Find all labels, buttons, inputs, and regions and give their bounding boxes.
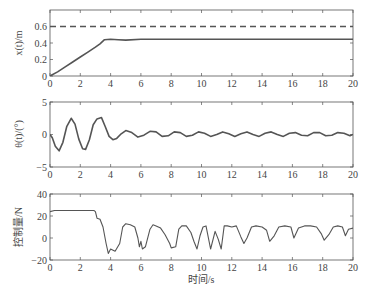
position-line (50, 39, 353, 76)
angle-plot: 02468101214161820−505 (36, 97, 358, 181)
position-plot: 0246810121416182000.20.40.6 (35, 10, 359, 89)
x-tick-label: 10 (197, 262, 207, 273)
angle-ylabel: θ(t)/(°) (13, 120, 25, 148)
x-tick-label: 2 (78, 169, 83, 180)
x-tick-label: 14 (257, 169, 267, 180)
y-tick-label: −5 (36, 162, 47, 173)
x-tick-label: 20 (348, 78, 358, 89)
x-tick-label: 0 (48, 262, 53, 273)
x-tick-label: 4 (108, 169, 113, 180)
y-tick-label: 0.6 (35, 21, 48, 32)
x-tick-label: 14 (257, 262, 267, 273)
position-ylabel: x(t)/m (13, 30, 25, 55)
y-tick-label: 0 (42, 233, 47, 244)
control-ylabel: 控制量/N (12, 207, 24, 247)
x-tick-label: 10 (197, 78, 207, 89)
x-tick-label: 0 (48, 78, 53, 89)
x-tick-label: 8 (169, 78, 174, 89)
time-xlabel: 时间/s (188, 273, 215, 285)
angle-line (50, 118, 353, 151)
x-tick-label: 10 (197, 169, 207, 180)
x-tick-label: 18 (318, 169, 328, 180)
x-tick-label: 14 (257, 78, 267, 89)
x-tick-label: 20 (348, 169, 358, 180)
x-tick-label: 12 (227, 262, 237, 273)
x-tick-label: 2 (78, 262, 83, 273)
y-tick-label: −20 (31, 255, 47, 266)
x-tick-label: 6 (138, 262, 143, 273)
x-tick-label: 0 (48, 169, 53, 180)
y-tick-label: 0 (42, 71, 47, 82)
x-tick-label: 20 (348, 262, 358, 273)
x-tick-label: 6 (138, 78, 143, 89)
axes-frame (50, 10, 353, 76)
x-tick-label: 4 (108, 78, 113, 89)
y-tick-label: 20 (37, 211, 47, 222)
x-tick-label: 2 (78, 78, 83, 89)
y-tick-label: 5 (42, 97, 47, 108)
axes-frame (50, 194, 353, 260)
x-tick-label: 16 (287, 169, 297, 180)
x-tick-label: 12 (227, 78, 237, 89)
y-tick-label: 0.2 (35, 54, 48, 65)
x-tick-label: 16 (287, 262, 297, 273)
y-tick-label: 40 (37, 189, 47, 200)
x-tick-label: 8 (169, 169, 174, 180)
x-tick-label: 18 (318, 78, 328, 89)
axes-frame (50, 102, 353, 167)
x-tick-label: 12 (227, 169, 237, 180)
figure: 0246810121416182000.20.40.6 024681012141… (0, 0, 366, 295)
control-force-plot: 02468101214161820−2002040 (31, 189, 358, 274)
y-tick-label: 0 (42, 129, 47, 140)
y-tick-label: 0.4 (35, 38, 48, 49)
x-tick-label: 16 (287, 78, 297, 89)
x-tick-label: 6 (138, 169, 143, 180)
x-tick-label: 4 (108, 262, 113, 273)
x-tick-label: 8 (169, 262, 174, 273)
x-tick-label: 18 (318, 262, 328, 273)
control-line (50, 211, 353, 254)
